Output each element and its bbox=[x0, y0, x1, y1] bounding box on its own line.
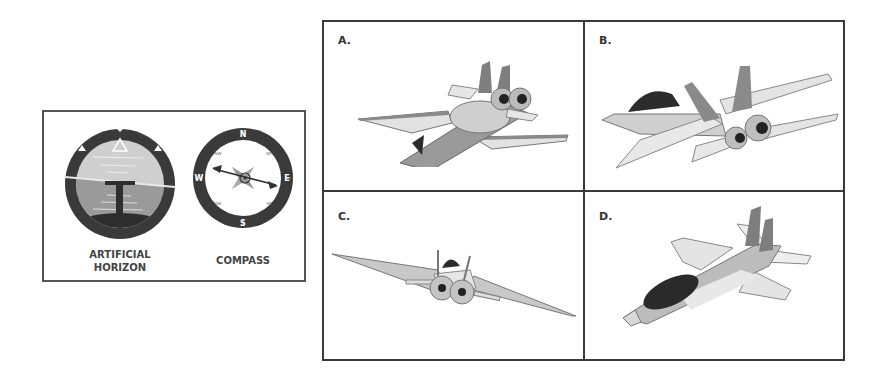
label-line-2: HORIZON bbox=[52, 261, 188, 274]
artificial-horizon-label: ARTIFICIAL HORIZON bbox=[52, 248, 188, 274]
instruments-panel: ARTIFICIAL HORIZON N S W E NW NE SW SE bbox=[42, 110, 306, 282]
aircraft-a-icon bbox=[352, 57, 572, 167]
option-d[interactable]: D. bbox=[585, 192, 845, 361]
aircraft-d-icon bbox=[621, 206, 821, 336]
aircraft-b-icon bbox=[600, 60, 840, 170]
label-line-1: ARTIFICIAL bbox=[52, 248, 188, 261]
svg-text:S: S bbox=[240, 219, 246, 228]
option-label: A. bbox=[338, 34, 351, 47]
option-label: D. bbox=[599, 210, 612, 223]
option-b[interactable]: B. bbox=[585, 22, 845, 190]
artificial-horizon-icon bbox=[63, 127, 177, 241]
compass-label: COMPASS bbox=[192, 254, 294, 267]
option-a[interactable]: A. bbox=[324, 22, 583, 190]
svg-text:SW: SW bbox=[215, 201, 222, 206]
option-label: B. bbox=[599, 34, 612, 47]
aircraft-c-icon bbox=[330, 250, 580, 320]
label-line-1: COMPASS bbox=[192, 254, 294, 267]
svg-text:NW: NW bbox=[215, 151, 222, 156]
option-label: C. bbox=[338, 210, 350, 223]
svg-text:NE: NE bbox=[266, 151, 272, 156]
svg-text:W: W bbox=[195, 174, 204, 183]
svg-text:N: N bbox=[240, 130, 247, 139]
compass-icon: N S W E NW NE SW SE bbox=[192, 127, 294, 229]
svg-text:SE: SE bbox=[266, 201, 272, 206]
answer-options-grid: A. B. bbox=[322, 20, 845, 361]
svg-text:E: E bbox=[284, 174, 289, 183]
option-c[interactable]: C. bbox=[324, 192, 583, 361]
